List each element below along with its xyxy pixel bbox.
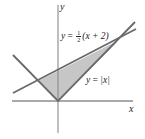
graph-figure: y x y = 1 2 (x + 2) y = |x| <box>0 0 145 139</box>
abs-eq-body: |x| <box>100 75 109 85</box>
y-axis-label: y <box>60 2 64 12</box>
abs-equation-label: y = |x| <box>86 76 110 86</box>
line-eq-body: (x + 2) <box>82 32 108 42</box>
line-eq-fraction: 1 2 <box>76 30 81 43</box>
fraction-denominator: 2 <box>77 37 80 43</box>
line-eq-equals: = <box>65 32 75 42</box>
graph-canvas <box>0 0 145 139</box>
abs-eq-equals: = <box>90 75 100 85</box>
x-axis-label: x <box>129 104 133 114</box>
line-equation-label: y = 1 2 (x + 2) <box>61 30 109 43</box>
fraction-numerator: 1 <box>76 30 81 37</box>
